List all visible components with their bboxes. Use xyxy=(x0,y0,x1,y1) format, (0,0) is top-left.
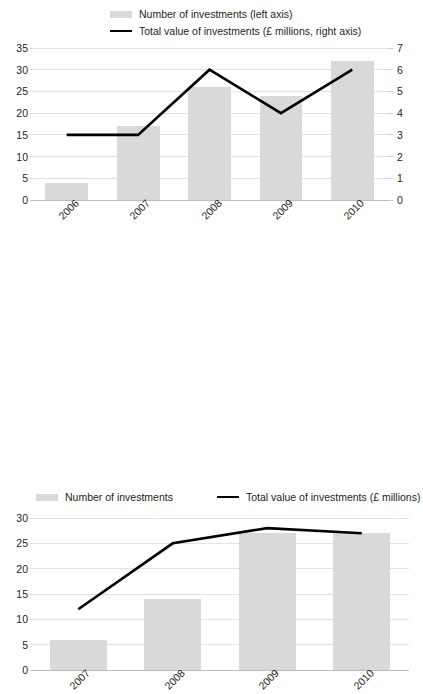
chart-bottom: Number of investments Total value of inv… xyxy=(0,240,419,474)
line-series-top xyxy=(31,48,388,200)
line-swatch-icon xyxy=(110,30,132,32)
legend-label-bars: Number of investments xyxy=(65,492,173,503)
plot-top: 05101520253035 01234567 2006200720082009… xyxy=(0,48,419,200)
x-tick-label: 2008 xyxy=(162,667,187,692)
line-swatch-icon xyxy=(217,496,239,498)
x-tick-slot: 2009 xyxy=(220,670,315,694)
plot-area-top xyxy=(31,48,388,200)
x-tick-slot: 2010 xyxy=(315,670,410,694)
legend-label-bars: Number of investments (left axis) xyxy=(139,9,292,20)
y-tick-label: 10 xyxy=(2,151,28,162)
y-tick-label-right: 6 xyxy=(397,64,423,75)
legend-row: Number of investments Total value of inv… xyxy=(36,492,416,503)
y-tick-label: 30 xyxy=(2,64,28,75)
x-tick-slot: 2007 xyxy=(102,200,173,240)
x-axis-bottom: 2007200820092010 xyxy=(31,670,409,694)
y-tick-label: 30 xyxy=(2,513,28,524)
x-tick-slot: 2006 xyxy=(31,200,102,240)
legend-item-bars: Number of investments xyxy=(36,492,173,503)
x-tick-label: 2007 xyxy=(67,667,92,692)
y-tick-label: 25 xyxy=(2,538,28,549)
x-tick-slot: 2010 xyxy=(317,200,388,240)
y-tick-label: 0 xyxy=(2,665,28,676)
y-tick-label-right: 0 xyxy=(397,195,423,206)
line-path xyxy=(78,528,362,609)
y-tick-label: 20 xyxy=(2,108,28,119)
y-tick-label: 5 xyxy=(2,173,28,184)
y-axis-right-top: 01234567 xyxy=(391,48,417,200)
bar-swatch-icon xyxy=(110,11,132,18)
legend-bottom: Number of investments Total value of inv… xyxy=(36,492,416,503)
y-tick-label: 20 xyxy=(2,563,28,574)
y-tick-label: 10 xyxy=(2,614,28,625)
x-tick-slot: 2008 xyxy=(126,670,221,694)
x-tick-label: 2007 xyxy=(127,197,152,222)
x-tick-slot: 2007 xyxy=(31,670,126,694)
x-tick-label: 2009 xyxy=(256,667,281,692)
legend-top: Number of investments (left axis) Total … xyxy=(110,9,361,42)
chart-top: Number of investments (left axis) Total … xyxy=(0,0,419,240)
legend-row: Number of investments (left axis) xyxy=(110,9,361,20)
y-tick-label: 5 xyxy=(2,639,28,650)
legend-row: Total value of investments (£ millions, … xyxy=(110,26,361,37)
y-axis-left-top: 05101520253035 xyxy=(2,48,28,200)
line-series-bottom xyxy=(31,518,409,670)
legend-item-line: Total value of investments (£ millions) xyxy=(217,492,421,503)
legend-label-line: Total value of investments (£ millions) xyxy=(246,492,421,503)
plot-area-bottom xyxy=(31,518,409,670)
y-axis-left-bottom: 051015202530 xyxy=(2,518,28,670)
y-tick-label-right: 4 xyxy=(397,108,423,119)
y-tick-label: 15 xyxy=(2,130,28,141)
x-tick-label: 2009 xyxy=(270,197,295,222)
y-tick-label: 15 xyxy=(2,589,28,600)
x-tick-label: 2008 xyxy=(198,197,223,222)
y-tick-label: 35 xyxy=(2,43,28,54)
legend-label-line: Total value of investments (£ millions, … xyxy=(139,26,361,37)
bar-swatch-icon xyxy=(36,494,58,501)
y-tick-label: 0 xyxy=(2,195,28,206)
x-tick-slot: 2008 xyxy=(174,200,245,240)
x-tick-label: 2010 xyxy=(341,197,366,222)
x-tick-slot: 2009 xyxy=(245,200,316,240)
y-tick-label-right: 2 xyxy=(397,151,423,162)
x-axis-top: 20062007200820092010 xyxy=(31,200,388,240)
y-tick-label-right: 3 xyxy=(397,130,423,141)
y-tick-label-right: 1 xyxy=(397,173,423,184)
line-path xyxy=(67,70,353,135)
x-tick-label: 2010 xyxy=(351,667,376,692)
y-tick-label: 25 xyxy=(2,86,28,97)
y-tick-label-right: 7 xyxy=(397,43,423,54)
plot-bottom: 051015202530 2007200820092010 xyxy=(0,518,419,670)
x-tick-label: 2006 xyxy=(56,197,81,222)
y-tick-label-right: 5 xyxy=(397,86,423,97)
